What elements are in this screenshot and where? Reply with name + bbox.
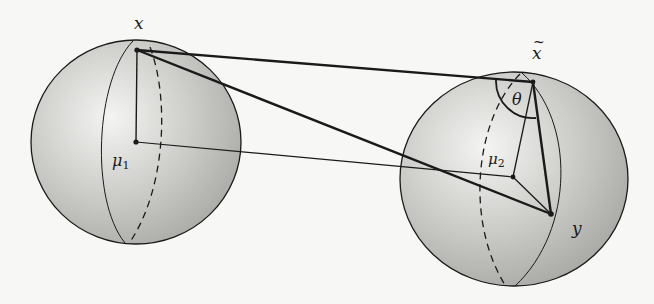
- point-mu1: [133, 139, 138, 144]
- label-mu2: μ2: [488, 152, 505, 169]
- point-mu2: [511, 175, 516, 180]
- label-mu1: μ1: [112, 153, 129, 171]
- point-x-tilde: [531, 80, 536, 85]
- point-y: [548, 211, 554, 217]
- label-y: y: [572, 220, 582, 237]
- label-x-tilde: x: [532, 45, 542, 62]
- point-x: [134, 47, 139, 52]
- label-x: x: [134, 15, 144, 32]
- diagram-canvas: [0, 0, 654, 304]
- label-theta: θ: [512, 92, 522, 108]
